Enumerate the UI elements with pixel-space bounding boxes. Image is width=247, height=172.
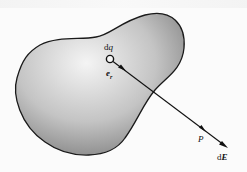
charge-element-circle	[106, 55, 113, 62]
point-p-marker	[199, 125, 206, 132]
diagram-svg	[0, 0, 247, 172]
charged-body	[16, 13, 185, 155]
label-dE: dE	[217, 153, 228, 162]
label-dE-E: E	[222, 152, 228, 162]
label-dq-q: q	[109, 42, 114, 52]
label-dq: dq	[104, 43, 113, 52]
label-unit-vector: er	[106, 69, 112, 80]
diagram-canvas: dq er P dE	[0, 0, 247, 172]
label-point-p: P	[198, 135, 204, 144]
label-e-subscript: r	[110, 74, 112, 80]
